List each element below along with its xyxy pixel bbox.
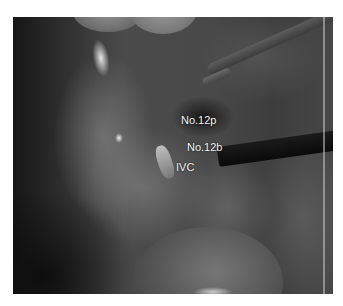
label-ivc: IVC: [176, 161, 194, 173]
upper-surgical-instrument: [206, 17, 333, 76]
dark-shadow-region: [13, 167, 153, 294]
lower-surgical-instrument: [217, 129, 333, 167]
bowel-loop: [133, 227, 283, 294]
tissue-background: [13, 17, 333, 294]
specular-highlight: [193, 287, 233, 294]
label-no12p: No.12p: [181, 114, 216, 126]
label-no12b: No.12b: [187, 141, 222, 153]
light-reflection: [90, 38, 112, 78]
frame-edge-line: [323, 17, 325, 294]
upper-instrument-tip: [201, 67, 232, 87]
ivc-surface: [153, 144, 177, 181]
surgical-photo: No.12p No.12b IVC: [13, 17, 333, 294]
organ-lobe-right: [128, 17, 198, 34]
organ-lobe-left: [73, 17, 143, 32]
light-reflection-small: [115, 133, 123, 143]
